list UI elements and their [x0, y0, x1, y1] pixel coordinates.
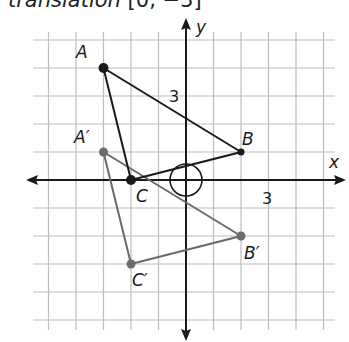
point-c: [126, 175, 136, 185]
label-a-prime: A′: [73, 127, 90, 147]
point-b-prime: [237, 232, 246, 241]
point-b: [238, 149, 245, 156]
coordinate-plane: y x 3 3 A B C A′ B′ C′: [0, 0, 349, 342]
y-axis-label: y: [195, 17, 207, 37]
y-tick-label: 3: [169, 87, 179, 106]
label-a: A: [75, 42, 88, 62]
point-a-prime: [99, 148, 108, 157]
point-c-prime: [127, 260, 136, 269]
label-c-prime: C′: [132, 270, 148, 290]
x-tick-label: 3: [262, 189, 272, 208]
point-a: [99, 63, 109, 73]
x-axis-label: x: [328, 152, 340, 172]
label-b: B: [242, 129, 254, 149]
label-b-prime: B′: [244, 243, 260, 263]
label-c: C: [136, 186, 148, 206]
